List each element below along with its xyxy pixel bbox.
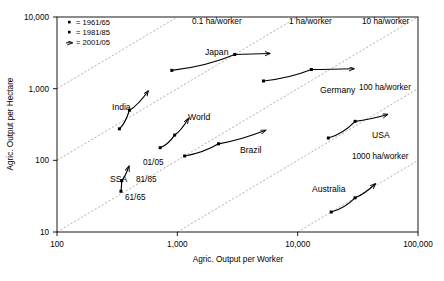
y-axis-title: Agric. Output per Hectare <box>6 77 15 170</box>
x-tick-label-0: 100 <box>50 240 64 249</box>
x-tick-label-1: 1,000 <box>167 240 188 249</box>
series-label-japan: Japan <box>205 47 229 57</box>
x-axis-title: Agric. Output per Worker <box>193 255 284 264</box>
data-point-marker <box>170 69 173 72</box>
data-point-marker <box>217 142 220 145</box>
data-point-marker <box>354 120 357 123</box>
data-point-marker <box>327 136 330 139</box>
year-annotation-0: 01/05 <box>143 158 164 167</box>
y-tick-label-2: 100 <box>35 156 49 165</box>
x-tick-label-3: 100,000 <box>403 240 433 249</box>
reference-label-2: 10 ha/worker <box>362 17 410 26</box>
data-point-marker <box>330 211 333 214</box>
data-point-marker <box>310 68 313 71</box>
data-point-marker <box>173 134 176 137</box>
legend-square-icon <box>68 31 71 34</box>
data-point-marker <box>233 53 236 56</box>
chart-figure: 1001,00010,000100,00010,0001,00010010 Ja… <box>0 0 444 281</box>
x-tick-label-2: 10,000 <box>285 240 310 249</box>
y-tick-label-3: 10 <box>40 228 50 237</box>
series-label-brazil: Brazil <box>240 145 262 155</box>
data-point-marker <box>262 79 265 82</box>
year-annotation-2: 61/65 <box>125 193 146 202</box>
reference-label-1: 1 ha/worker <box>289 17 332 26</box>
legend-label-0: = 1961/65 <box>76 18 110 27</box>
reference-label-3: 100 ha/worker <box>359 83 411 92</box>
year-annotation-1: 81/85 <box>136 175 157 184</box>
series-label-usa: USA <box>372 130 390 140</box>
series-label-germany: Germany <box>320 85 356 95</box>
scatter-plot-canvas: 1001,00010,000100,00010,0001,00010010 Ja… <box>0 0 444 281</box>
chart-background <box>0 0 444 281</box>
series-label-australia: Australia <box>312 184 346 194</box>
reference-label-4: 1000 ha/worker <box>352 152 409 161</box>
series-label-ssa: SSA <box>110 174 127 184</box>
data-point-marker <box>183 154 186 157</box>
data-point-marker <box>118 127 121 130</box>
reference-label-0: 0.1 ha/worker <box>192 17 242 26</box>
series-label-world: World <box>188 112 211 122</box>
data-point-marker <box>354 196 357 199</box>
series-label-india: India <box>112 102 131 112</box>
y-tick-label-1: 1,000 <box>29 85 50 94</box>
legend-square-icon <box>68 21 71 24</box>
y-tick-label-0: 10,000 <box>24 13 49 22</box>
legend-label-1: = 1981/85 <box>76 28 110 37</box>
data-point-marker <box>119 190 122 193</box>
legend-label-2: = 2001/05 <box>76 38 110 47</box>
data-point-marker <box>159 146 162 149</box>
